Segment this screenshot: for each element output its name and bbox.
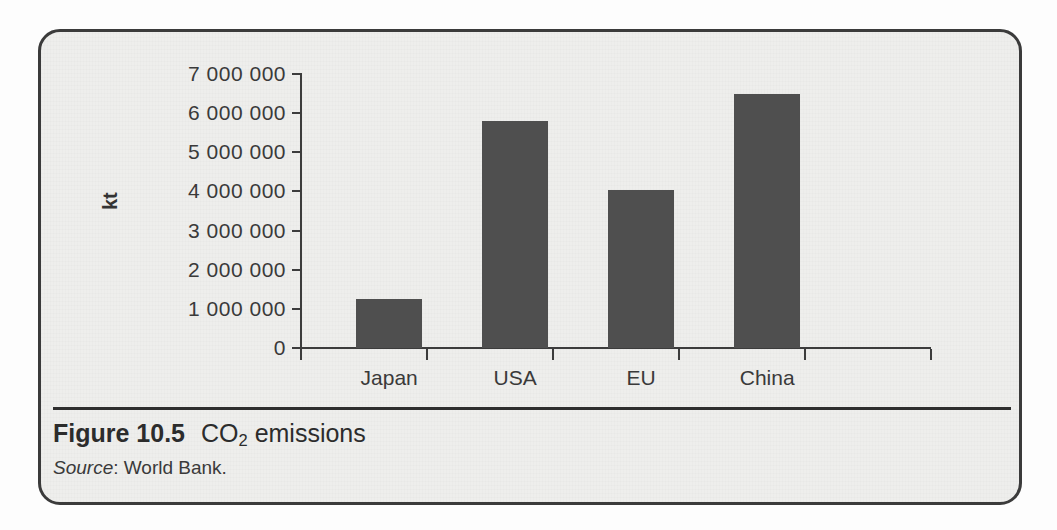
caption-title-line: Figure 10.5CO2 emissions <box>53 418 993 450</box>
figure-frame: 01 000 0002 000 0003 000 0004 000 0005 0… <box>38 29 1022 505</box>
bar-china <box>734 94 800 348</box>
x-axis-label-china: China <box>740 366 795 390</box>
y-axis-tick <box>292 308 301 310</box>
y-axis-tick-label: 7 000 000 <box>136 63 286 84</box>
caption-block: Figure 10.5CO2 emissions Source: World B… <box>53 418 993 479</box>
figure-title: CO2 emissions <box>201 419 366 447</box>
figure-title-rest: emissions <box>248 419 366 447</box>
y-axis-tick-label: 5 000 000 <box>136 141 286 162</box>
y-axis-tick-label: 2 000 000 <box>136 259 286 280</box>
x-axis-tick <box>552 349 554 360</box>
source-label: Source <box>53 457 113 478</box>
y-axis-tick-label: 0 <box>136 337 286 358</box>
caption-source-line: Source: World Bank. <box>53 457 993 479</box>
x-axis-tick <box>804 349 806 360</box>
x-axis-tick <box>678 349 680 360</box>
figure-title-subscript: 2 <box>239 431 248 449</box>
x-axis-label-japan: Japan <box>361 366 418 390</box>
bar-eu <box>608 190 674 348</box>
figure-number: Figure 10.5 <box>53 419 185 447</box>
y-axis-tick-label: 3 000 000 <box>136 220 286 241</box>
y-axis-tick <box>292 230 301 232</box>
bar-chart-plot-area: 01 000 0002 000 0003 000 0004 000 0005 0… <box>41 32 1022 377</box>
x-axis-tick <box>930 349 932 360</box>
y-axis-tick <box>292 73 301 75</box>
caption-divider <box>53 407 1011 410</box>
figure-title-main: CO <box>201 419 239 447</box>
y-axis-tick <box>292 112 301 114</box>
y-axis-tick-label: 6 000 000 <box>136 102 286 123</box>
y-axis-tick <box>292 190 301 192</box>
y-axis-title: kt <box>99 192 122 210</box>
x-axis-label-eu: EU <box>627 366 656 390</box>
x-axis-label-usa: USA <box>494 366 537 390</box>
source-separator: : <box>113 457 124 478</box>
bar-usa <box>482 121 548 348</box>
y-axis-tick-label: 1 000 000 <box>136 298 286 319</box>
x-axis-tick <box>300 349 302 360</box>
x-axis-tick <box>426 349 428 360</box>
source-value: World Bank. <box>124 457 227 478</box>
y-axis-tick-labels: 01 000 0002 000 0003 000 0004 000 0005 0… <box>126 32 286 377</box>
y-axis-tick-label: 4 000 000 <box>136 180 286 201</box>
y-axis-tick <box>292 151 301 153</box>
bar-japan <box>356 299 422 348</box>
y-axis-tick <box>292 269 301 271</box>
figure-root: 01 000 0002 000 0003 000 0004 000 0005 0… <box>0 0 1057 530</box>
